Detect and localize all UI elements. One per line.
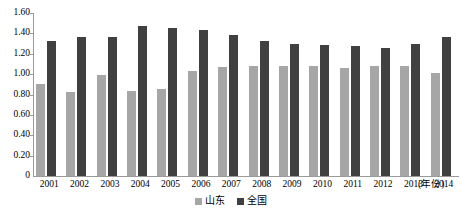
- bar-山东-2009: [279, 66, 288, 176]
- legend-entry-山东[interactable]: 山东: [195, 196, 225, 206]
- legend-label: 山东: [205, 196, 225, 206]
- bar-全国-2002: [77, 37, 86, 176]
- bar-group: [186, 13, 216, 176]
- bar-山东-2012: [370, 66, 379, 176]
- bar-group: [368, 13, 398, 176]
- bar-山东-2007: [218, 67, 227, 176]
- bar-group: [34, 13, 64, 176]
- x-tick-label: 2009: [277, 179, 307, 190]
- bar-group: [125, 13, 155, 176]
- x-tick-label: 2004: [125, 179, 155, 190]
- y-tick-mark: [28, 74, 33, 75]
- bar-山东-2010: [309, 66, 318, 176]
- bar-group: [247, 13, 277, 176]
- bar-山东-2013: [400, 66, 409, 176]
- bar-全国-2011: [351, 46, 360, 176]
- y-tick-mark: [28, 13, 33, 14]
- bar-全国-2004: [138, 26, 147, 176]
- bar-全国-2014: [442, 37, 451, 176]
- bar-全国-2001: [47, 41, 56, 176]
- bar-group: [216, 13, 246, 176]
- chart-legend: 山东全国: [0, 196, 462, 206]
- y-tick-mark: [28, 33, 33, 34]
- y-tick-mark: [28, 54, 33, 55]
- bar-山东-2005: [157, 89, 166, 176]
- bar-chart: 00.200.400.600.801.001.201.401.60 200120…: [0, 0, 462, 214]
- bar-group: [307, 13, 337, 176]
- bar-全国-2007: [229, 35, 238, 176]
- x-tick-label: 2001: [34, 179, 64, 190]
- x-axis: 2001200220032004200520062007200820092010…: [34, 179, 460, 193]
- bar-全国-2003: [108, 37, 117, 176]
- bar-group: [398, 13, 428, 176]
- bar-全国-2010: [320, 45, 329, 176]
- x-tick-label: 2003: [95, 179, 125, 190]
- y-tick-mark: [28, 156, 33, 157]
- legend-swatch-icon: [237, 198, 244, 205]
- x-tick-label: 2010: [307, 179, 337, 190]
- legend-entry-全国[interactable]: 全国: [237, 196, 267, 206]
- plot-area: [34, 13, 459, 176]
- legend-label: 全国: [247, 196, 267, 206]
- bar-山东-2002: [66, 92, 75, 176]
- bar-山东-2008: [249, 66, 258, 176]
- x-axis-line: [33, 176, 459, 177]
- bar-group: [338, 13, 368, 176]
- bar-group: [277, 13, 307, 176]
- bar-group: [64, 13, 94, 176]
- bar-山东-2001: [36, 84, 45, 176]
- x-tick-label: 2002: [64, 179, 94, 190]
- x-tick-label: 2008: [247, 179, 277, 190]
- x-tick-label: 2012: [368, 179, 398, 190]
- y-tick-mark: [28, 115, 33, 116]
- bar-山东-2006: [188, 71, 197, 176]
- x-axis-unit-label: (年份): [418, 179, 444, 190]
- y-tick-mark: [28, 95, 33, 96]
- bar-全国-2009: [290, 44, 299, 176]
- bar-全国-2006: [199, 30, 208, 176]
- bar-group: [429, 13, 459, 176]
- x-tick-label: 2011: [338, 179, 368, 190]
- x-tick-label: 2006: [186, 179, 216, 190]
- bar-全国-2008: [260, 41, 269, 176]
- bar-山东-2004: [127, 91, 136, 176]
- x-tick-label: 2007: [216, 179, 246, 190]
- bar-山东-2014: [431, 73, 440, 176]
- x-tick-label: 2005: [155, 179, 185, 190]
- legend-swatch-icon: [195, 198, 202, 205]
- y-tick-mark: [28, 135, 33, 136]
- bar-group: [95, 13, 125, 176]
- bar-全国-2013: [411, 44, 420, 176]
- y-axis: 00.200.400.600.801.001.201.401.60: [0, 0, 30, 180]
- y-tick-label: 0: [25, 171, 30, 181]
- bar-山东-2003: [97, 75, 106, 176]
- bar-group: [155, 13, 185, 176]
- bar-山东-2011: [340, 68, 349, 176]
- bar-全国-2012: [381, 48, 390, 176]
- bar-全国-2005: [168, 28, 177, 176]
